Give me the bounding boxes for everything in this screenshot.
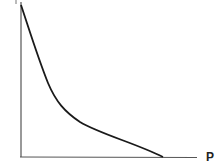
x-axis <box>20 157 197 158</box>
x-axis-label: P <box>206 150 214 164</box>
curve-line <box>21 5 163 157</box>
diagram-canvas <box>0 0 221 167</box>
